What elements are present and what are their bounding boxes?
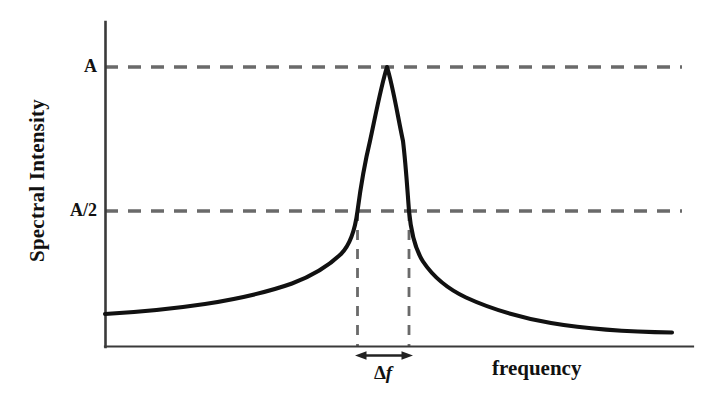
y-tick-label-half-amplitude: A/2 bbox=[30, 200, 97, 221]
fwhm-annotation-label: Δf bbox=[352, 362, 414, 384]
chart-canvas bbox=[0, 0, 717, 410]
fwhm-arrow bbox=[355, 351, 413, 360]
x-axis-label: frequency bbox=[492, 356, 581, 381]
y-axis-label: Spectral Intensity bbox=[25, 66, 50, 296]
frequency-variable-symbol: f bbox=[386, 362, 392, 383]
y-tick-label-peak-amplitude: A bbox=[30, 56, 97, 77]
spectral-intensity-curve bbox=[105, 67, 672, 333]
spectral-lineshape-figure: Spectral Intensity A A/2 frequency Δf bbox=[0, 0, 717, 410]
delta-symbol: Δ bbox=[374, 362, 386, 383]
